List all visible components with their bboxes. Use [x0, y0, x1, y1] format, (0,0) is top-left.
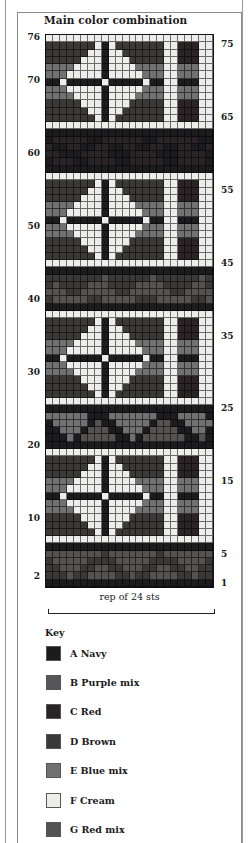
- stitch-cell: [185, 580, 192, 587]
- stitch-cell: [199, 57, 206, 64]
- stitch-cell: [67, 115, 74, 122]
- stitch-cell: [130, 471, 137, 478]
- stitch-cell: [136, 500, 143, 507]
- stitch-cell: [136, 282, 143, 289]
- stitch-cell: [143, 572, 150, 579]
- stitch-cell: [143, 195, 150, 202]
- stitch-cell: [130, 267, 137, 274]
- stitch-cell: [67, 551, 74, 558]
- stitch-cell: [171, 572, 178, 579]
- stitch-cell: [150, 347, 157, 354]
- stitch-cell: [150, 253, 157, 260]
- stitch-cell: [60, 217, 67, 224]
- stitch-cell: [136, 202, 143, 209]
- stitch-cell: [116, 151, 123, 158]
- stitch-cell: [150, 304, 157, 311]
- stitch-cell: [199, 529, 206, 536]
- stitch-cell: [46, 449, 53, 456]
- stitch-cell: [157, 275, 164, 282]
- stitch-cell: [185, 35, 192, 42]
- stitch-cell: [143, 275, 150, 282]
- stitch-cell: [150, 144, 157, 151]
- stitch-cell: [192, 122, 199, 129]
- stitch-cell: [192, 108, 199, 115]
- stitch-cell: [109, 369, 116, 376]
- stitch-cell: [88, 500, 95, 507]
- stitch-cell: [164, 384, 171, 391]
- stitch-cell: [60, 57, 67, 64]
- stitch-cell: [171, 137, 178, 144]
- stitch-cell: [95, 391, 102, 398]
- stitch-cell: [143, 565, 150, 572]
- stitch-cell: [185, 456, 192, 463]
- stitch-cell: [109, 195, 116, 202]
- stitch-cell: [60, 376, 67, 383]
- stitch-cell: [95, 267, 102, 274]
- stitch-cell: [67, 391, 74, 398]
- stitch-cell: [46, 166, 53, 173]
- stitch-cell: [150, 289, 157, 296]
- stitch-cell: [192, 522, 199, 529]
- stitch-cell: [206, 405, 213, 412]
- stitch-cell: [102, 158, 109, 165]
- stitch-cell: [109, 296, 116, 303]
- stitch-cell: [74, 340, 81, 347]
- stitch-cell: [157, 405, 164, 412]
- stitch-cell: [53, 260, 60, 267]
- stitch-cell: [143, 246, 150, 253]
- stitch-cell: [88, 296, 95, 303]
- stitch-cell: [116, 565, 123, 572]
- stitch-cell: [60, 543, 67, 550]
- stitch-cell: [130, 493, 137, 500]
- stitch-cell: [143, 86, 150, 93]
- stitch-cell: [74, 166, 81, 173]
- stitch-cell: [109, 253, 116, 260]
- stitch-cell: [130, 434, 137, 441]
- stitch-cell: [74, 50, 81, 57]
- stitch-cell: [143, 522, 150, 529]
- stitch-cell: [185, 50, 192, 57]
- stitch-cell: [157, 311, 164, 318]
- stitch-cell: [81, 151, 88, 158]
- stitch-cell: [136, 217, 143, 224]
- stitch-cell: [81, 253, 88, 260]
- stitch-cell: [53, 166, 60, 173]
- stitch-cell: [157, 188, 164, 195]
- stitch-cell: [109, 180, 116, 187]
- stitch-cell: [157, 318, 164, 325]
- stitch-cell: [53, 86, 60, 93]
- stitch-cell: [46, 144, 53, 151]
- stitch-cell: [102, 35, 109, 42]
- key-label: C Red: [70, 706, 101, 717]
- stitch-cell: [136, 57, 143, 64]
- stitch-cell: [60, 122, 67, 129]
- stitch-cell: [53, 543, 60, 550]
- stitch-cell: [178, 355, 185, 362]
- stitch-cell: [130, 209, 137, 216]
- stitch-cell: [81, 478, 88, 485]
- stitch-cell: [130, 79, 137, 86]
- stitch-cell: [171, 551, 178, 558]
- stitch-cell: [74, 304, 81, 311]
- stitch-cell: [81, 79, 88, 86]
- stitch-cell: [164, 369, 171, 376]
- stitch-cell: [206, 35, 213, 42]
- stitch-cell: [109, 427, 116, 434]
- stitch-cell: [185, 565, 192, 572]
- stitch-cell: [143, 427, 150, 434]
- stitch-cell: [116, 158, 123, 165]
- stitch-cell: [95, 340, 102, 347]
- stitch-cell: [130, 231, 137, 238]
- stitch-cell: [95, 326, 102, 333]
- stitch-cell: [206, 231, 213, 238]
- stitch-cell: [164, 122, 171, 129]
- stitch-cell: [206, 57, 213, 64]
- stitch-cell: [102, 536, 109, 543]
- stitch-cell: [143, 57, 150, 64]
- stitch-cell: [74, 362, 81, 369]
- stitch-cell: [178, 384, 185, 391]
- stitch-cell: [53, 188, 60, 195]
- stitch-cell: [192, 536, 199, 543]
- stitch-cell: [46, 173, 53, 180]
- stitch-cell: [88, 42, 95, 49]
